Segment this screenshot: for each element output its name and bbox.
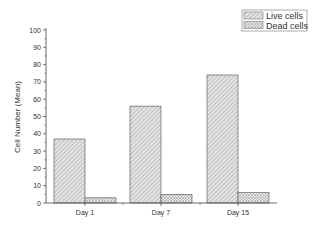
bar-live-cells-day-15 (207, 75, 238, 203)
legend-label: Live cells (266, 11, 304, 21)
y-tick-label: 40 (33, 130, 41, 137)
legend: Live cellsDead cells (242, 10, 309, 31)
bar-dead-cells-day-1 (85, 198, 116, 203)
y-tick-label: 90 (33, 44, 41, 51)
y-tick-label: 100 (29, 27, 41, 34)
y-tick-label: 60 (33, 96, 41, 103)
legend-swatch (244, 22, 263, 29)
bar-live-cells-day-7 (130, 106, 161, 203)
bar-dead-cells-day-7 (161, 194, 192, 203)
y-tick-label: 30 (33, 148, 41, 155)
bar-chart: Day 1Day 7Day 150102030405060708090100Ce… (0, 0, 322, 227)
bar-dead-cells-day-15 (238, 193, 269, 203)
y-tick-label: 80 (33, 61, 41, 68)
x-tick-label: Day 15 (227, 209, 249, 217)
y-tick-label: 10 (33, 182, 41, 189)
y-tick-label: 0 (37, 200, 41, 207)
y-axis-title: Cell Number (Mean) (13, 81, 22, 153)
y-tick-label: 70 (33, 78, 41, 85)
y-tick-label: 50 (33, 113, 41, 120)
x-tick-label: Day 1 (76, 209, 94, 217)
bars-group (54, 75, 269, 203)
y-tick-label: 20 (33, 165, 41, 172)
x-tick-label: Day 7 (152, 209, 170, 217)
legend-label: Dead cells (266, 21, 309, 31)
legend-swatch (244, 12, 263, 19)
bar-live-cells-day-1 (54, 139, 85, 203)
